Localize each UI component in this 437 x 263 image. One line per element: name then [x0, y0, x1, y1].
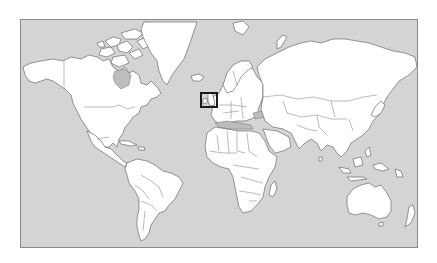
highlight-box-british-isles [200, 92, 218, 108]
hispaniola [138, 147, 145, 150]
world-map-svg [21, 20, 418, 248]
world-map: British Isles (United Kingdom and Irelan… [20, 19, 418, 248]
sri-lanka [319, 157, 322, 161]
tasmania [379, 222, 383, 226]
